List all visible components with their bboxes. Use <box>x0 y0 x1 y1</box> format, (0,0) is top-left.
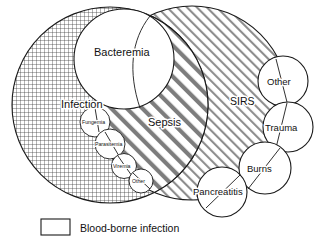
label-other-bloodborne: Other <box>132 178 145 184</box>
label-bacteremia: Bacteremia <box>94 46 151 58</box>
label-other-sirs: Other <box>267 76 291 87</box>
label-viremia: Viremia <box>113 163 131 169</box>
region-bacteremia[interactable] <box>74 9 174 109</box>
label-burns: Burns <box>247 163 272 174</box>
venn-diagram-svg: Infection Bacteremia Sepsis SIRS Fungemi… <box>0 0 320 239</box>
label-sepsis: Sepsis <box>148 116 182 128</box>
legend-swatch <box>41 219 70 235</box>
label-fungemia: Fungemia <box>82 119 105 125</box>
label-infection: Infection <box>61 98 103 110</box>
label-sirs: SIRS <box>230 95 255 107</box>
legend-label: Blood-borne infection <box>80 222 179 234</box>
label-pancreatitis: Pancreatitis <box>193 186 243 197</box>
figure-canvas: Infection Bacteremia Sepsis SIRS Fungemi… <box>0 0 320 239</box>
legend: Blood-borne infection <box>41 219 179 235</box>
label-parasitemia: Parasitemia <box>95 141 123 147</box>
label-trauma: Trauma <box>265 122 298 133</box>
